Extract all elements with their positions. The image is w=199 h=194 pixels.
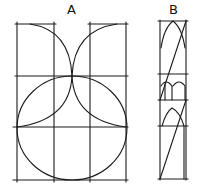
- lower-pointed-arch: [162, 108, 184, 179]
- diagonal-lower: [160, 100, 186, 179]
- panel-b: [158, 20, 188, 180]
- diagonal-upper: [160, 21, 186, 100]
- large-circle: [17, 76, 127, 180]
- panel-a: [13, 22, 128, 182]
- diagram-canvas: [0, 0, 199, 194]
- panel-a-grid: [13, 22, 128, 182]
